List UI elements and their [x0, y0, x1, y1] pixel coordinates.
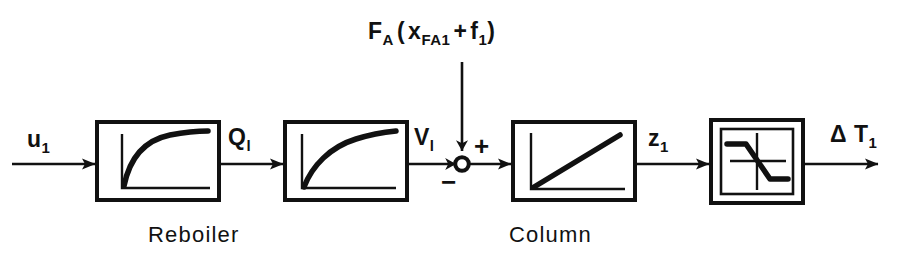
- disturbance-base: F: [368, 18, 383, 44]
- signal-delta-t1-sub: 1: [868, 134, 876, 151]
- block-3: [513, 122, 635, 200]
- signal-label-u1: u1: [27, 128, 50, 155]
- signal-label-q1: Ql: [228, 126, 251, 153]
- signal-v1-sub: l: [430, 137, 434, 154]
- disturbance-close-paren: ): [487, 18, 495, 44]
- disturbance-open-paren: (: [394, 18, 408, 44]
- disturbance-base-sub: A: [383, 31, 394, 48]
- disturbance-plus: +: [450, 18, 470, 44]
- reboiler-caption: Reboiler: [148, 224, 240, 246]
- signal-q1-base: Q: [228, 124, 246, 150]
- signal-u1-base: u: [27, 126, 42, 152]
- block-4: [711, 120, 803, 203]
- signal-delta-t1-base: Δ T: [830, 121, 868, 147]
- signal-z1-sub: 1: [660, 138, 668, 155]
- block-diagram-figure: FA(xFA1+f1) u1 Ql Vl z1 Δ T1 + − Reboile…: [0, 0, 908, 269]
- block-1: [97, 122, 219, 200]
- block-2: [285, 122, 407, 200]
- signal-label-delta-t1: Δ T1: [830, 123, 877, 150]
- disturbance-var-sub: FA1: [421, 31, 450, 48]
- signal-u1-sub: 1: [42, 139, 50, 156]
- signal-label-z1: z1: [648, 127, 668, 154]
- summing-junction-minus-sign: −: [441, 169, 457, 195]
- disturbance-term: f: [470, 18, 478, 44]
- summing-junction: [455, 157, 469, 171]
- disturbance-var: x: [408, 18, 421, 44]
- signal-label-v1: Vl: [414, 126, 434, 153]
- summing-junction-plus-sign: +: [474, 133, 490, 159]
- disturbance-label: FA(xFA1+f1): [368, 20, 496, 47]
- column-caption: Column: [509, 224, 592, 246]
- signal-v1-base: V: [414, 124, 430, 150]
- signal-z1-base: z: [648, 125, 660, 151]
- signal-q1-sub: l: [246, 137, 250, 154]
